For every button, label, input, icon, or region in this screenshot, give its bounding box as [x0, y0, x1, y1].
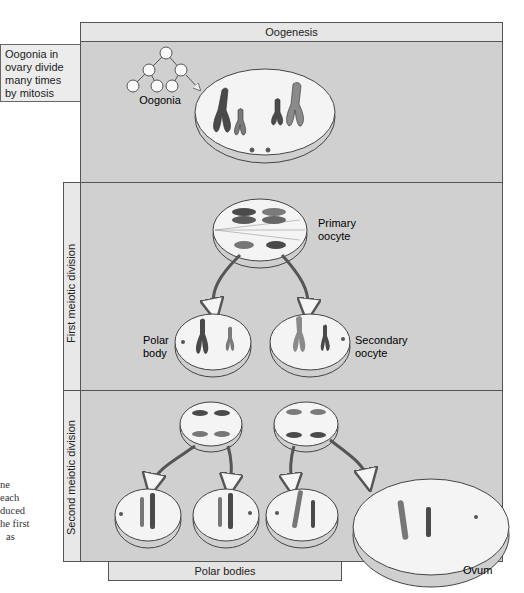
oogonium-large-cell	[195, 69, 335, 163]
arrow	[291, 446, 294, 485]
centrosome-icon	[181, 340, 185, 344]
centrosome-icon	[275, 511, 279, 515]
polar-body-1	[115, 489, 181, 548]
secondary-oocyte-label: Secondary	[355, 334, 408, 346]
oogenesis-diagram: Oogonia Primary oocyte Polar body	[0, 0, 524, 593]
polar-body-3	[266, 489, 338, 548]
secondary-oocyte-dividing-cell	[274, 402, 338, 452]
secondary-oocyte-label-2: oocyte	[355, 347, 387, 359]
oogonium-cell	[166, 80, 178, 92]
oogonium-cell	[127, 80, 139, 92]
polar-body-dividing-cell	[180, 402, 242, 452]
centrosome-icon	[341, 337, 345, 341]
polar-body-cell	[175, 314, 251, 377]
oogonia-label: Oogonia	[139, 94, 181, 106]
centrosome-icon	[474, 515, 478, 519]
oogonium-cell	[175, 64, 187, 76]
oogonia-arrow	[186, 75, 198, 88]
arrow	[152, 446, 195, 485]
primary-oocyte-cell	[213, 199, 307, 268]
secondary-oocyte-cell	[270, 314, 350, 377]
centrosome-icon	[119, 512, 123, 516]
arrow-to-secondary-oocyte	[282, 255, 308, 310]
polar-body-2	[193, 489, 259, 548]
primary-oocyte-label: Primary	[318, 217, 356, 229]
oogonia-tree	[127, 47, 198, 92]
oogonium-cell	[143, 64, 155, 76]
primary-oocyte-label-2: oocyte	[318, 230, 350, 242]
arrow	[330, 440, 368, 480]
polar-body-label-2: body	[143, 347, 167, 359]
oogonium-cell	[160, 47, 172, 59]
polar-body-label: Polar	[143, 334, 169, 346]
centrosome-icon	[248, 511, 252, 515]
oogonium-cell	[151, 80, 163, 92]
arrow	[228, 446, 231, 485]
ovum-label: Ovum	[463, 564, 492, 576]
